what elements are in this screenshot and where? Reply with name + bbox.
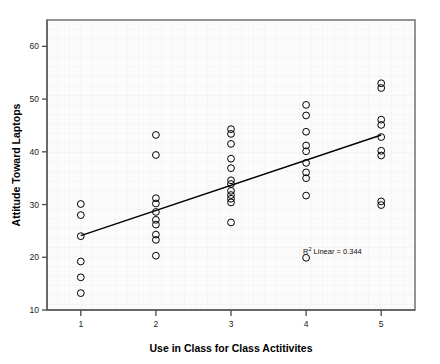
y-tick-label: 20 [30,252,40,262]
r-squared-label: R2 Linear = 0.344 [303,246,362,256]
y-tick-label: 30 [30,200,40,210]
x-tick-label: 4 [304,319,309,329]
r-value-text: Linear = 0.344 [312,247,362,256]
y-tick-label: 60 [30,41,40,51]
x-tick-label: 2 [154,319,159,329]
x-axis: 12345 [47,310,415,329]
x-tick-label: 5 [379,319,384,329]
chart-annotations: R2 Linear = 0.344 [303,246,362,256]
y-axis: 102030405060 [30,20,47,315]
x-axis-title: Use in Class for Class Actitivites [149,342,312,354]
y-tick-label: 40 [30,147,40,157]
plot-canvas: 102030405060 12345 R2 Linear = 0.344 Att… [0,0,440,364]
x-tick-label: 3 [229,319,234,329]
y-tick-label: 50 [30,94,40,104]
x-tick-label: 1 [78,319,83,329]
y-tick-label: 10 [30,305,40,315]
scatter-plot-figure: 102030405060 12345 R2 Linear = 0.344 Att… [0,0,440,364]
y-axis-title: Attitude Toward Laptops [10,103,22,226]
